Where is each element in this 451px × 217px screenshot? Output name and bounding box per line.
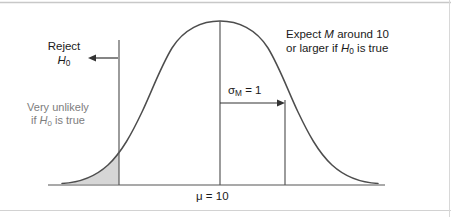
sigma-subscript: M	[235, 89, 242, 98]
reject-h0-label: Reject H0	[36, 40, 92, 69]
mu-equals-value: = 10	[203, 190, 229, 202]
expect-m-symbol: M	[324, 28, 334, 40]
very-unlikely-prefix: if	[31, 114, 40, 126]
sigma-m-label: σM = 1	[228, 84, 262, 99]
rejection-region-shading	[62, 150, 119, 184]
mu-symbol: μ	[196, 190, 203, 202]
very-unlikely-line1: Very unlikely	[27, 101, 89, 113]
sigma-equals-value: = 1	[242, 84, 262, 96]
expect-m-label: Expect M around 10 or larger if H0 is tr…	[286, 28, 389, 57]
expect-prefix: Expect	[286, 28, 324, 40]
reject-h-symbol: H	[58, 54, 66, 66]
reject-text: Reject	[48, 40, 81, 52]
expect-line2-suffix: is true	[354, 42, 389, 54]
reject-h-subscript: 0	[66, 59, 71, 68]
expect-line2-prefix: or larger if	[286, 42, 341, 54]
figure-container: Reject H0 Very unlikely if H0 is true Ex…	[0, 0, 451, 217]
very-unlikely-h-symbol: H	[40, 114, 48, 126]
very-unlikely-suffix: is true	[52, 114, 85, 126]
very-unlikely-label: Very unlikely if H0 is true	[12, 101, 104, 129]
expect-suffix: around 10	[334, 28, 389, 40]
sigma-arrow-head-icon	[277, 100, 285, 107]
mu-label: μ = 10	[196, 190, 229, 204]
